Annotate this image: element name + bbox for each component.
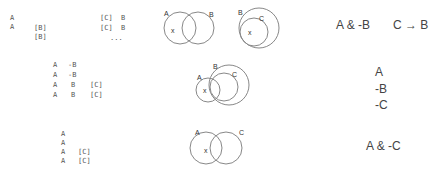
circle-label-a: A bbox=[197, 74, 202, 81]
formula: A & -C bbox=[366, 139, 401, 153]
circle-b bbox=[209, 65, 249, 105]
table-cell: A bbox=[61, 157, 65, 166]
formula: A & -B bbox=[336, 18, 370, 32]
table-cell: A bbox=[53, 81, 57, 90]
formula: A bbox=[375, 65, 383, 79]
table-cell: B bbox=[71, 91, 75, 100]
table-cell: -B bbox=[68, 71, 76, 80]
table-cell: [B] bbox=[34, 24, 47, 33]
circle-label-b: B bbox=[209, 11, 214, 18]
venn-diagram-a-b-c: A B C x bbox=[190, 60, 260, 110]
point-x: x bbox=[204, 147, 208, 154]
circle-label-b: B bbox=[213, 63, 218, 70]
table-cell: -B bbox=[68, 61, 76, 70]
circle-label-c: C bbox=[232, 71, 237, 78]
circle-c bbox=[240, 18, 268, 46]
table-cell: [C] bbox=[90, 81, 103, 90]
table-cell: A bbox=[10, 14, 14, 23]
table-cell: A bbox=[53, 61, 57, 70]
table-cell: A bbox=[10, 23, 14, 32]
table-cell: B bbox=[71, 81, 75, 90]
table-cell: B bbox=[121, 14, 125, 23]
venn-diagram-a-b: A B x bbox=[160, 0, 230, 50]
circle-label-c: C bbox=[239, 129, 244, 136]
ellipsis: ... bbox=[110, 34, 123, 43]
table-cell: A bbox=[61, 139, 65, 148]
table-cell: [C] bbox=[78, 157, 91, 166]
circle-label-a: A bbox=[164, 10, 169, 17]
formula: C → B bbox=[393, 18, 428, 32]
point-x: x bbox=[171, 27, 175, 34]
table-cell: A bbox=[61, 130, 65, 139]
circle-b bbox=[239, 8, 279, 48]
formula: -C bbox=[375, 98, 388, 112]
table-cell: A bbox=[53, 71, 57, 80]
table-cell: B bbox=[121, 24, 125, 33]
table-cell: A bbox=[53, 91, 57, 100]
point-x: x bbox=[248, 29, 252, 36]
point-x: x bbox=[203, 87, 207, 94]
table-cell: [C] bbox=[100, 14, 113, 23]
venn-diagram-b-c: B C x bbox=[230, 0, 290, 50]
formula: -B bbox=[375, 82, 387, 96]
circle-label-b: B bbox=[238, 9, 243, 16]
circle-label-c: C bbox=[259, 15, 264, 22]
table-cell: [B] bbox=[34, 33, 47, 42]
table-cell: [C] bbox=[100, 24, 113, 33]
table-cell: A bbox=[61, 148, 65, 157]
circle-label-a: A bbox=[195, 129, 200, 136]
table-cell: [C] bbox=[90, 91, 103, 100]
venn-diagram-a-c: A C x bbox=[190, 120, 260, 170]
circle-a bbox=[164, 12, 196, 44]
circle-c bbox=[210, 132, 242, 164]
table-cell: [C] bbox=[78, 148, 91, 157]
